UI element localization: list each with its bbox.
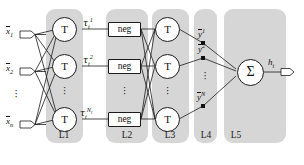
tau-label-2: τt2: [83, 56, 93, 65]
tau-label-Nl: τtNl: [80, 109, 92, 118]
figure-canvas: x1 x2 xn ··· T T T ··· τt1 τt2 τtNl neg …: [0, 0, 304, 165]
l3-node-3: T: [155, 107, 180, 132]
input-2-subscript: 2: [10, 68, 13, 75]
l2-node-3: neg: [108, 112, 141, 127]
l1-node-1-text: T: [61, 23, 68, 35]
l1-node-3-text: T: [61, 113, 68, 125]
l3-node-2-text: T: [164, 60, 171, 72]
input-n-subscript: n: [10, 121, 13, 128]
panel-label-l1: L1: [52, 130, 76, 140]
l2-ellipsis: ···: [121, 86, 129, 96]
l4-label-y1: y1: [198, 30, 205, 39]
l3-node-1-text: T: [164, 23, 171, 35]
l3-node-1: T: [155, 17, 180, 42]
input-1-subscript: 1: [10, 31, 13, 38]
input-label-x1: x1: [6, 27, 13, 36]
l2-node-3-text: neg: [118, 114, 132, 124]
tau-2-superscript: 2: [90, 53, 93, 60]
l4-ellipsis: ···: [201, 71, 209, 81]
l4-label-y2: y2: [198, 45, 205, 54]
panel-label-l4: L4: [194, 130, 218, 140]
tau-Nl-subscript: t: [85, 113, 87, 120]
l3-node-2: T: [155, 54, 180, 79]
tau-Nl-sup-subscript: l: [91, 110, 92, 115]
panel-label-l5: L5: [224, 130, 248, 140]
l1-ellipsis: ···: [61, 86, 69, 96]
tau-1-superscript: 1: [90, 16, 93, 23]
input-label-x2: x2: [6, 64, 13, 73]
l3-ellipsis: ···: [164, 86, 172, 96]
l4-junction-3: [201, 104, 204, 107]
input-label-xn: xn: [6, 117, 13, 126]
output-label-ht: ht: [268, 58, 274, 67]
tau-1-subscript: t: [88, 23, 90, 30]
l1-node-2: T: [52, 54, 77, 79]
l1-node-3: T: [52, 107, 77, 132]
l2-node-2-text: neg: [118, 61, 132, 71]
l2-node-1: neg: [108, 22, 141, 37]
y-1-superscript: 1: [202, 27, 205, 34]
l4-label-yN: yN: [197, 93, 205, 102]
panel-label-l2: L2: [115, 130, 139, 140]
tau-2-subscript: t: [88, 60, 90, 67]
l2-node-1-text: neg: [118, 24, 132, 34]
l1-node-2-text: T: [61, 60, 68, 72]
l2-node-2: neg: [108, 59, 141, 74]
l1-node-1: T: [52, 17, 77, 42]
l3-node-3-text: T: [164, 113, 171, 125]
l4-junction-2: [201, 56, 204, 59]
l5-sum-node: Σ: [237, 59, 264, 86]
panel-label-l3: L3: [158, 130, 182, 140]
y-2-superscript: 2: [202, 42, 205, 49]
input-ellipsis: ···: [12, 89, 20, 99]
l5-sum-symbol: Σ: [246, 64, 254, 80]
tau-Nl-superscript: Nl: [87, 106, 92, 113]
y-N-superscript: N: [201, 90, 205, 97]
tau-label-1: τt1: [83, 19, 93, 28]
